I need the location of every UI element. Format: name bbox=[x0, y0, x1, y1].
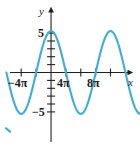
x-tick-label-minus-4pi: −4π bbox=[8, 77, 27, 89]
curve-left-tail bbox=[6, 128, 10, 132]
y-axis-label: y bbox=[39, 6, 44, 17]
y-tick-label-minus-5: −5 bbox=[32, 106, 45, 118]
y-tick-label-5: 5 bbox=[38, 27, 44, 39]
x-axis-label: x bbox=[128, 77, 133, 88]
x-tick-label-8pi: 8π bbox=[87, 77, 100, 89]
graph-figure: y x 5 −5 −4π 4π 8π bbox=[0, 0, 140, 148]
x-tick-label-4pi: 4π bbox=[57, 77, 70, 89]
coordinate-plane-svg bbox=[0, 0, 140, 148]
